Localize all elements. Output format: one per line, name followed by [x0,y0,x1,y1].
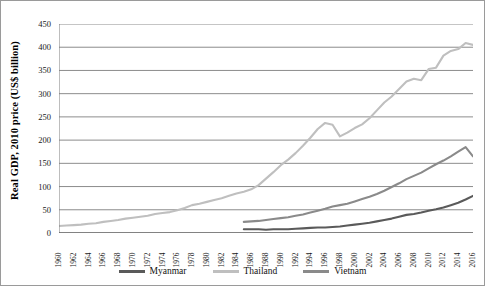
legend-item-thailand[interactable]: Thailand [213,266,278,276]
legend-swatch-icon [303,270,329,273]
chart-canvas [59,24,473,233]
x-axis-tick-labels: 1960196219641966196819701972197419761978… [59,237,473,267]
legend-item-vietnam[interactable]: Vietnam [303,266,366,276]
y-tick-label: 250 [38,112,51,122]
y-tick-label: 350 [38,65,51,75]
y-tick-label: 450 [38,19,51,29]
legend-label: Thailand [244,266,278,276]
legend-item-myanmar[interactable]: Myanmar [119,266,187,276]
y-tick-label: 100 [38,182,51,192]
data-series-group [59,43,473,230]
y-axis-tick-labels: 050100150200250300350400450 [25,24,57,233]
legend-swatch-icon [119,270,145,273]
plot-area [59,24,473,233]
y-tick-label: 0 [47,228,51,238]
legend-swatch-icon [213,270,239,273]
series-line-vietnam [244,147,473,222]
y-tick-label: 200 [38,135,51,145]
y-axis-title-text: Real GDP, 2010 price (US$ billion) [9,41,20,200]
y-tick-label: 400 [38,42,51,52]
y-tick-label: 50 [43,205,52,215]
y-axis-title: Real GDP, 2010 price (US$ billion) [3,1,25,239]
legend-label: Myanmar [150,266,187,276]
legend-label: Vietnam [334,266,366,276]
y-tick-label: 300 [38,89,51,99]
y-tick-label: 150 [38,158,51,168]
gridlines [59,24,473,233]
chart-legend: MyanmarThailandVietnam [1,264,484,278]
chart-figure: Real GDP, 2010 price (US$ billion) 05010… [0,0,485,286]
